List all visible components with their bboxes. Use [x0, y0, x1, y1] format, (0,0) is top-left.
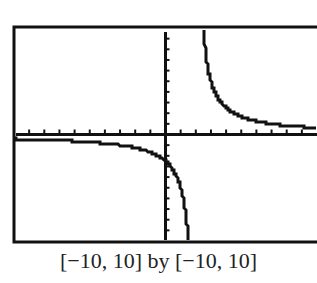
window-caption: [−10, 10] by [−10, 10]	[0, 248, 317, 274]
graph-window	[0, 0, 317, 245]
